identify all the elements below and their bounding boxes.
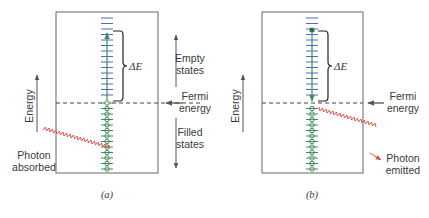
panel-b-delta-e-label: ΔE (333, 60, 347, 72)
panel-a-energy-label: Energy (23, 89, 35, 123)
panel-a-caption: (a) (101, 189, 114, 201)
panel-b-photon-arrow-icon (370, 153, 381, 160)
panel-a-delta-e-brace (113, 31, 127, 101)
panel-a-fermi-label-1: Fermi (182, 90, 209, 102)
panel-a-empty-states-label-1: Empty (175, 52, 206, 64)
panel-b-caption: (b) (306, 189, 319, 201)
panel-b-photon-wave (319, 107, 376, 127)
panel-a: Energy Empty states Fermi energy Filled … (12, 12, 212, 201)
panel-b-filled-levels (306, 106, 318, 171)
panel-b-excited-electron (309, 27, 314, 32)
panel-b-photon-label-2: emitted (386, 164, 421, 176)
panel-a-empty-states-label-2: states (176, 64, 204, 76)
panel-a-photon-wave (43, 127, 110, 149)
panel-a-filled-states-label-1: Filled (177, 126, 202, 138)
panel-b-photon-label-1: Photon (386, 152, 419, 164)
panel-a-photon-label-2: absorbed (12, 161, 56, 173)
panel-a-fermi-label-2: energy (179, 102, 212, 114)
panel-a-photon-label-1: Photon (17, 149, 50, 161)
panel-a-filled-states-label-2: states (176, 138, 204, 150)
panel-b-delta-e-brace (318, 31, 332, 101)
panel-b-energy-label: Energy (229, 89, 241, 123)
panel-b: ΔE Energy Fermi energy Photon emitted (b… (229, 12, 420, 201)
panel-b-fermi-label-1: Fermi (390, 90, 417, 102)
panel-a-filled-levels (101, 101, 113, 171)
panel-b-fermi-label-2: energy (387, 102, 420, 114)
panel-a-delta-e-label: ΔE (128, 60, 142, 72)
energy-band-diagram: Energy Empty states Fermi energy Filled … (0, 0, 429, 218)
